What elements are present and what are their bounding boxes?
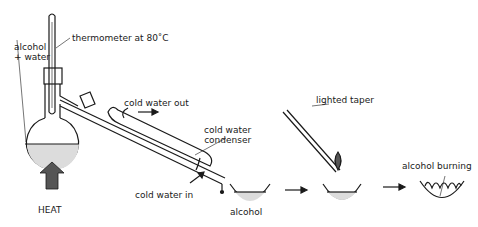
label-lighted-taper: lighted taper (316, 95, 374, 105)
label-condenser-line2: condenser (204, 135, 251, 145)
label-thermometer: thermometer at 80˚C (72, 33, 169, 43)
label-alcohol-water-line1: alcohol (14, 42, 50, 52)
label-condenser-line1: cold water (204, 125, 251, 135)
dish-taper (323, 184, 361, 200)
cold-water-out-arrow (138, 109, 158, 115)
lighted-taper (283, 110, 341, 172)
label-cold-water-in: cold water in (135, 190, 193, 200)
label-alcohol-burning: alcohol burning (402, 161, 472, 171)
label-condenser: cold water condenser (204, 125, 251, 145)
label-alcohol-water-line2: + water (14, 52, 50, 62)
thermometer (49, 14, 55, 114)
dish-alcohol (230, 184, 270, 201)
label-alcohol-water: alcohol + water (14, 42, 50, 62)
dish-burning (420, 181, 464, 198)
label-cold-water-out: cold water out (124, 98, 189, 108)
label-alcohol: alcohol (230, 207, 262, 217)
cold-water-in-arrow (190, 172, 204, 183)
label-heat: HEAT (38, 205, 61, 215)
stopper (44, 68, 62, 84)
